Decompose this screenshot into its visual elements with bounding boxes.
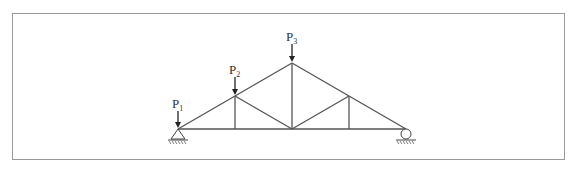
load-arrow-p3-icon [289,44,295,62]
pin-support-icon [168,129,188,144]
truss-diagram: P1 P2 P3 [0,0,581,172]
load-arrow-p2-icon [232,77,238,95]
load-label-p3: P3 [286,29,297,46]
diagonal-right [292,96,349,129]
load-label-p1: P1 [172,96,183,113]
load-label-p2: P2 [229,62,240,79]
load-arrow-p1-icon [175,111,181,128]
truss-members [178,63,406,129]
diagonal-left [235,96,292,129]
roller-support-icon [396,129,416,144]
